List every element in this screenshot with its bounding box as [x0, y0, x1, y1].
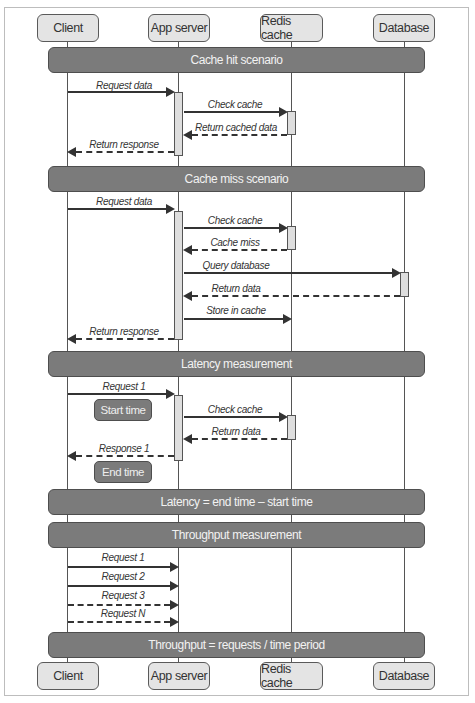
- note-start-time: Start time: [94, 399, 152, 421]
- activation-redis-cache: [287, 111, 296, 135]
- participant-client-bottom: Client: [37, 662, 99, 690]
- label-query-database: Query database: [203, 260, 270, 271]
- label-check-cache: Check cache: [208, 404, 263, 415]
- activation-redis-cache: [287, 415, 296, 440]
- label-request-1: Request 1: [103, 381, 146, 392]
- label-request-n: Request N: [101, 608, 146, 619]
- label-check-cache: Check cache: [208, 99, 263, 110]
- label-cache-miss: Cache miss: [210, 237, 259, 248]
- label-return-response: Return response: [89, 326, 158, 337]
- section-throughput-formula: Throughput = requests / time period: [48, 632, 425, 658]
- activation-redis-cache: [287, 226, 296, 250]
- label-return-data: Return data: [212, 426, 261, 437]
- activation-app-server: [174, 395, 183, 461]
- participant-client-top: Client: [37, 14, 99, 42]
- label-check-cache: Check cache: [208, 215, 263, 226]
- participant-database-bottom: Database: [373, 662, 435, 690]
- participant-app-server-top: App server: [148, 14, 210, 42]
- label-store-in-cache: Store in cache: [206, 305, 266, 316]
- participant-database-top: Database: [373, 14, 435, 42]
- section-throughput: Throughput measurement: [48, 522, 425, 548]
- label-request-data: Request data: [96, 80, 152, 91]
- activation-app-server: [174, 92, 183, 156]
- participant-redis-cache-bottom: Redis cache: [260, 662, 323, 690]
- participant-redis-cache-top: Redis cache: [260, 14, 323, 42]
- label-return-data: Return data: [212, 283, 261, 294]
- label-return-response: Return response: [89, 139, 158, 150]
- participant-app-server-bottom: App server: [148, 662, 210, 690]
- label-response-1: Response 1: [99, 443, 149, 454]
- activation-database: [400, 272, 409, 297]
- section-cache-miss: Cache miss scenario: [48, 166, 425, 192]
- label-request-1: Request 1: [102, 552, 145, 563]
- note-end-time: End time: [94, 461, 152, 483]
- label-request-data: Request data: [96, 196, 152, 207]
- label-request-3: Request 3: [102, 590, 145, 601]
- section-latency-formula: Latency = end time – start time: [48, 489, 425, 515]
- label-request-2: Request 2: [102, 571, 145, 582]
- section-latency: Latency measurement: [48, 351, 425, 377]
- section-cache-hit: Cache hit scenario: [48, 47, 425, 73]
- label-return-cached-data: Return cached data: [195, 122, 277, 133]
- activation-app-server: [174, 211, 183, 340]
